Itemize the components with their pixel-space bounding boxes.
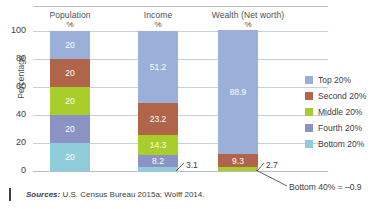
chart-figure: Population % Income % Wealth (Net worth)… — [0, 0, 391, 209]
legend-item-label: Second 20% — [318, 91, 366, 101]
legend-item-label: Top 20% — [318, 75, 351, 85]
legend-item-1[interactable]: Second 20% — [305, 88, 391, 104]
source-note-text: U.S. Census Bureau 2015a; Wolff 2014. — [60, 190, 204, 199]
legend-swatch-icon — [305, 92, 313, 100]
legend-swatch-icon — [305, 76, 313, 84]
legend-swatch-icon — [305, 108, 313, 116]
chart-legend: Top 20%Second 20%Middle 20%Fourth 20%Bot… — [305, 72, 391, 152]
legend-swatch-icon — [305, 124, 313, 132]
legend-item-label: Middle 20% — [318, 107, 362, 117]
legend-item-label: Fourth 20% — [318, 123, 362, 133]
legend-item-3[interactable]: Fourth 20% — [305, 120, 391, 136]
legend-item-2[interactable]: Middle 20% — [305, 104, 391, 120]
source-note: Sources: U.S. Census Bureau 2015a; Wolff… — [26, 190, 204, 199]
source-note-prefix: Sources: — [26, 190, 60, 199]
legend-item-label: Bottom 20% — [318, 139, 364, 149]
legend-item-0[interactable]: Top 20% — [305, 72, 391, 88]
legend-item-4[interactable]: Bottom 20% — [305, 136, 391, 152]
source-tick-mark — [9, 188, 11, 201]
legend-swatch-icon — [305, 140, 313, 148]
